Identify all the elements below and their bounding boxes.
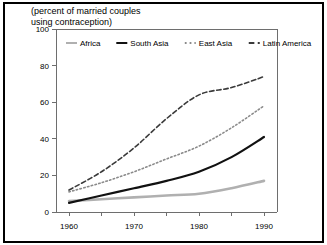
legend-label-latin-america: Latin America [263, 39, 312, 48]
legend-label-south-asia: South Asia [130, 39, 169, 48]
x-tick-label: 1960 [60, 222, 78, 231]
x-tick-label: 1990 [255, 222, 273, 231]
chart-figure: (percent of married couples using contra… [0, 0, 327, 245]
line-chart-plot: 020406080100 1960197019801990 AfricaSout… [0, 0, 327, 245]
y-tick-label: 40 [40, 135, 49, 144]
x-tick-label: 1970 [125, 222, 143, 231]
data-series-group [69, 77, 264, 203]
y-tick-label: 60 [40, 98, 49, 107]
y-axis-ticks: 020406080100 [36, 25, 56, 217]
series-line-latin-america [69, 77, 264, 190]
chart-legend: AfricaSouth AsiaEast AsiaLatin America [66, 39, 312, 48]
legend-label-africa: Africa [80, 39, 101, 48]
x-tick-label: 1980 [190, 222, 208, 231]
y-tick-label: 0 [45, 208, 50, 217]
series-line-east-asia [69, 106, 264, 192]
y-tick-label: 100 [36, 25, 50, 34]
series-line-south-asia [69, 137, 264, 203]
y-tick-label: 80 [40, 62, 49, 71]
y-tick-label: 20 [40, 171, 49, 180]
legend-label-east-asia: East Asia [199, 39, 233, 48]
x-axis-ticks: 1960197019801990 [60, 212, 273, 231]
